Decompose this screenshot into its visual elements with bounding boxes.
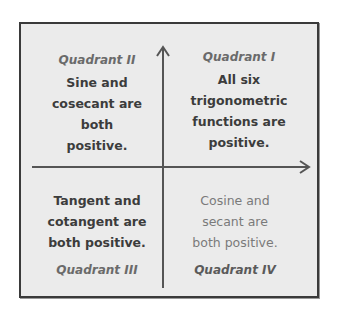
quadrant-i: Quadrant I All six trigonometric functio… bbox=[178, 47, 300, 153]
quadrant-iii-title: Quadrant III bbox=[34, 260, 160, 281]
quadrant-i-title: Quadrant I bbox=[178, 47, 300, 68]
quadrant-iv: Cosine and secant are both positive. Qua… bbox=[172, 190, 298, 281]
text-line: functions are bbox=[178, 111, 300, 132]
quadrant-i-text: All six trigonometric functions are posi… bbox=[178, 69, 300, 153]
text-line: trigonometric bbox=[178, 90, 300, 111]
text-line: cotangent are bbox=[34, 211, 160, 232]
quadrant-ii-text: Sine and cosecant are both positive. bbox=[38, 72, 156, 156]
quadrant-ii: Quadrant II Sine and cosecant are both p… bbox=[38, 50, 156, 156]
quadrant-iv-text: Cosine and secant are both positive. bbox=[172, 190, 298, 253]
text-line: cosecant are bbox=[38, 93, 156, 114]
text-line: both positive. bbox=[34, 232, 160, 253]
quadrant-iii-text: Tangent and cotangent are both positive. bbox=[34, 190, 160, 253]
text-line: Sine and bbox=[38, 72, 156, 93]
text-line: Tangent and bbox=[34, 190, 160, 211]
quadrant-iii: Tangent and cotangent are both positive.… bbox=[34, 190, 160, 281]
text-line: Cosine and bbox=[172, 190, 298, 211]
text-line: secant are bbox=[172, 211, 298, 232]
quadrant-ii-title: Quadrant II bbox=[38, 50, 156, 71]
text-line: All six bbox=[178, 69, 300, 90]
text-line: positive. bbox=[178, 132, 300, 153]
text-line: positive. bbox=[38, 135, 156, 156]
text-line: both positive. bbox=[172, 232, 298, 253]
quadrant-iv-title: Quadrant IV bbox=[172, 260, 298, 281]
text-line: both bbox=[38, 114, 156, 135]
